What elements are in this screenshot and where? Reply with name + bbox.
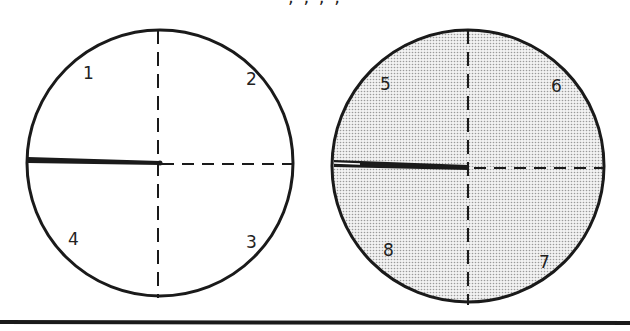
quadrant-label-2: 2 <box>246 69 257 89</box>
quadrant-label-6: 6 <box>551 76 562 96</box>
left-disk: 1 2 3 4 <box>27 30 293 298</box>
diagram-canvas: 1 2 3 4 5 6 7 8 <box>0 0 630 331</box>
quadrant-label-3: 3 <box>246 232 257 252</box>
quadrant-label-4: 4 <box>68 229 79 249</box>
quadrant-label-5: 5 <box>380 74 391 94</box>
quadrant-label-1: 1 <box>83 63 94 83</box>
right-slit-highlight <box>334 163 360 164</box>
right-disk: 5 6 7 8 <box>332 30 604 305</box>
left-center-point <box>158 161 163 166</box>
quadrant-label-7: 7 <box>539 252 550 272</box>
bottom-divider-line <box>0 322 630 323</box>
quadrant-label-8: 8 <box>383 240 394 260</box>
